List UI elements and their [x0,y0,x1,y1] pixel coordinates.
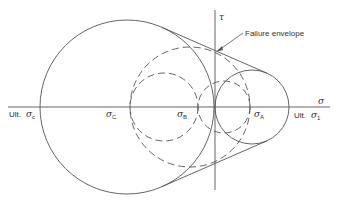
sigma-b-sub: B [183,114,187,120]
sigma-a-sub: A [260,114,264,120]
sigma-label: σ [318,96,325,106]
ult-sigma-c-sub: c [32,114,35,120]
tau-label: τ [219,12,225,22]
sigma-c-sub: C [112,114,117,120]
ult-sigma-1-prefix: Ult. [294,111,306,120]
envelope-leader-line [219,33,243,50]
arrowhead-icon [216,46,223,52]
failure-envelope-lower [162,141,267,187]
ult-sigma-1-sub: 1 [317,115,321,121]
failure-envelope-label: Failure envelope [245,29,305,38]
mohr-diagram: τ σ Failure envelope Ult. σ c σ C σ B σ … [0,0,337,202]
ult-sigma-c-prefix: Ult. [9,110,21,119]
